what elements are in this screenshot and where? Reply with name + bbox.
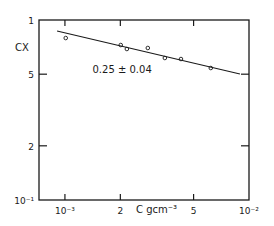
y-tick-label: 1 bbox=[28, 16, 34, 26]
chart: 10⁻³2510⁻²15210⁻¹ CX C gcm⁻³ 0.25 ± 0.04 bbox=[0, 0, 274, 226]
tick-labels: 10⁻³2510⁻²15210⁻¹ bbox=[14, 16, 259, 216]
y-tick-label: 10⁻¹ bbox=[14, 196, 34, 206]
slope-annotation: 0.25 ± 0.04 bbox=[93, 64, 152, 75]
x-tick-label: 2 bbox=[117, 206, 123, 216]
y-axis-title: CX bbox=[15, 42, 29, 53]
x-tick-label: 10⁻² bbox=[239, 206, 259, 216]
data-point bbox=[146, 46, 150, 50]
x-tick-label: 10⁻³ bbox=[55, 206, 75, 216]
data-point bbox=[64, 36, 68, 40]
ticks bbox=[39, 20, 249, 200]
y-tick-label: 2 bbox=[28, 142, 34, 152]
x-axis-title: C gcm⁻³ bbox=[136, 204, 177, 215]
x-tick-label: 5 bbox=[191, 206, 197, 216]
y-tick-label: 5 bbox=[28, 70, 34, 80]
plot-frame bbox=[39, 20, 249, 200]
annotations: 0.25 ± 0.04 bbox=[93, 64, 152, 75]
